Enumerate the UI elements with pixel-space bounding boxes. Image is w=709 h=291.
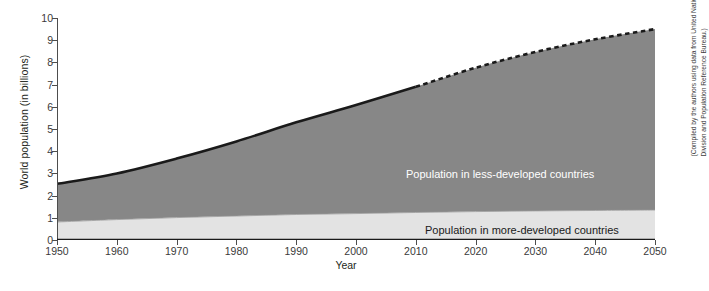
y-tick-mark-3 — [52, 173, 57, 174]
x-tick-label-2040: 2040 — [584, 246, 607, 257]
y-tick-mark-7 — [52, 85, 57, 86]
y-tick-mark-5 — [52, 129, 57, 130]
chart-canvas — [57, 18, 655, 240]
x-tick-label-1990: 1990 — [285, 246, 308, 257]
x-tick-label-2030: 2030 — [524, 246, 547, 257]
y-tick-mark-9 — [52, 40, 57, 41]
y-tick-mark-10 — [52, 18, 57, 19]
y-tick-mark-4 — [52, 151, 57, 152]
x-tick-label-2000: 2000 — [344, 246, 367, 257]
series-group — [57, 29, 655, 240]
y-tick-mark-6 — [52, 107, 57, 108]
y-tick-mark-2 — [52, 196, 57, 197]
source-credit: (Compiled by the authors using data from… — [689, 0, 708, 157]
x-tick-label-2020: 2020 — [464, 246, 487, 257]
series-label-more-developed: Population in more-developed countries — [425, 224, 619, 236]
plot-area: 012345678910 195019601970198019902000201… — [57, 18, 655, 240]
y-tick-mark-1 — [52, 218, 57, 219]
x-tick-label-2050: 2050 — [643, 246, 666, 257]
series-label-less-developed: Population in less-developed countries — [406, 168, 594, 180]
x-tick-label-1950: 1950 — [45, 246, 68, 257]
x-tick-label-1980: 1980 — [225, 246, 248, 257]
x-tick-label-1960: 1960 — [105, 246, 128, 257]
area-less-developed — [57, 29, 655, 222]
y-axis-title: World population (in billions) — [18, 12, 30, 232]
x-tick-label-2010: 2010 — [404, 246, 427, 257]
y-tick-mark-8 — [52, 62, 57, 63]
x-tick-label-1970: 1970 — [165, 246, 188, 257]
x-axis-title: Year — [0, 259, 692, 271]
